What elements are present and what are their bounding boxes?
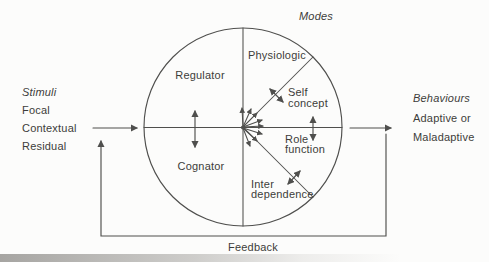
behaviours-item-maladaptive: Maladaptive [413, 131, 475, 143]
center-node [241, 125, 245, 129]
regulator-label: Regulator [175, 69, 225, 81]
behaviours-item-adaptive: Adaptive or [413, 112, 471, 124]
interdependence-mode-label-line2: dependence [251, 188, 314, 200]
self-concept-mode-label-line2: concept [288, 97, 328, 109]
stimuli-item-residual: Residual [22, 140, 66, 152]
role-function-mode-label-line2: function [285, 143, 325, 155]
physiologic-selfconcept-arrow [270, 89, 283, 102]
stimuli-heading: Stimuli [22, 86, 57, 98]
stimuli-item-focal: Focal [22, 104, 50, 116]
page-scan-shadow [0, 254, 489, 262]
cognator-label: Cognator [178, 160, 225, 172]
behaviours-heading: Behaviours [413, 92, 470, 104]
modes-heading: Modes [299, 10, 333, 22]
physiologic-mode-label: Physiologic [248, 49, 306, 61]
feedback-label: Feedback [228, 241, 278, 253]
adaptation-model-diagram: Modes Stimuli Focal Contextual Residual … [0, 0, 489, 262]
stimuli-item-contextual: Contextual [22, 122, 77, 134]
